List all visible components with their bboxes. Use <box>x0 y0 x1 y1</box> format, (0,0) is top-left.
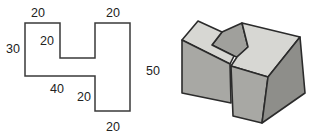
dimension-label-top-left-segment: 20 <box>31 6 45 20</box>
drawing-canvas: 2020302050402020 <box>0 0 313 140</box>
dimension-label-bottom-right-segment: 20 <box>106 120 120 134</box>
dimension-label-top-right-segment: 20 <box>106 6 120 20</box>
dimension-label-right-side: 50 <box>146 64 160 78</box>
dimension-label-notch-depth: 20 <box>40 34 54 48</box>
dimension-label-bottom-left-segment: 40 <box>50 82 64 96</box>
technical-drawing-page: 2020302050402020 <box>0 0 313 140</box>
dimension-label-left-side: 30 <box>6 42 20 56</box>
orthographic-view: 2020302050402020 <box>6 6 160 134</box>
isometric-view <box>182 21 305 123</box>
dimension-label-step-height: 20 <box>77 90 91 104</box>
